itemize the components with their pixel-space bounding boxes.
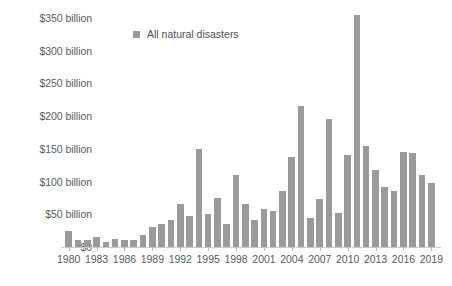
bar-2013[interactable] — [372, 170, 379, 247]
x-tick-label-1980: 1980 — [57, 253, 80, 265]
x-tick-label-1989: 1989 — [141, 253, 164, 265]
bar-slot — [166, 8, 175, 247]
x-tick-label-2010: 2010 — [336, 253, 359, 265]
bar-slot — [389, 8, 398, 247]
x-tick-label-1986: 1986 — [113, 253, 136, 265]
bar-2014[interactable] — [381, 187, 388, 247]
bar-1991[interactable] — [168, 220, 175, 248]
bar-1996[interactable] — [214, 198, 221, 247]
bar-2007[interactable] — [316, 199, 323, 247]
bar-slot — [83, 8, 92, 247]
bar-2001[interactable] — [261, 209, 268, 247]
bar-1999[interactable] — [242, 204, 249, 247]
bar-2018[interactable] — [419, 175, 426, 247]
bar-slot — [399, 8, 408, 247]
x-tick-label-1995: 1995 — [197, 253, 220, 265]
bar-slot — [222, 8, 231, 247]
bar-slot — [213, 8, 222, 247]
bar-slot — [417, 8, 426, 247]
x-tick-label-2007: 2007 — [308, 253, 331, 265]
bar-slot — [380, 8, 389, 247]
bar-series-all-natural-disasters — [64, 8, 436, 247]
bar-slot — [324, 8, 333, 247]
bar-slot — [148, 8, 157, 247]
bar-slot — [176, 8, 185, 247]
bar-1995[interactable] — [205, 214, 212, 247]
bar-2002[interactable] — [270, 211, 277, 247]
bar-1990[interactable] — [158, 224, 165, 247]
x-tick-label-2001: 2001 — [252, 253, 275, 265]
plot-area — [64, 8, 436, 247]
bar-1998[interactable] — [233, 175, 240, 247]
bar-slot — [64, 8, 73, 247]
bar-slot — [269, 8, 278, 247]
bar-1997[interactable] — [223, 224, 230, 247]
bar-slot — [203, 8, 212, 247]
bar-2000[interactable] — [251, 220, 258, 248]
bar-slot — [120, 8, 129, 247]
x-tick-2016 — [403, 247, 404, 251]
bar-2009[interactable] — [335, 213, 342, 247]
bar-slot — [334, 8, 343, 247]
x-tick-label-1983: 1983 — [85, 253, 108, 265]
bar-slot — [110, 8, 119, 247]
bar-1988[interactable] — [140, 235, 147, 247]
x-tick-label-2013: 2013 — [364, 253, 387, 265]
x-tick-1995 — [208, 247, 209, 251]
bar-2003[interactable] — [279, 191, 286, 247]
bar-2011[interactable] — [354, 15, 361, 247]
x-axis-tick-marks — [64, 247, 436, 251]
bar-2015[interactable] — [391, 191, 398, 247]
bar-2010[interactable] — [344, 155, 351, 247]
x-tick-label-2004: 2004 — [280, 253, 303, 265]
x-tick-label-2016: 2016 — [392, 253, 415, 265]
x-axis: 1980198319861989199219951998200120042007… — [64, 253, 436, 269]
bar-slot — [278, 8, 287, 247]
x-tick-label-1998: 1998 — [224, 253, 247, 265]
bar-slot — [185, 8, 194, 247]
bar-1989[interactable] — [149, 227, 156, 247]
bar-slot — [362, 8, 371, 247]
natural-disasters-bar-chart: $0$50 billion$100 billion$150 billion$20… — [0, 0, 452, 286]
bar-2008[interactable] — [326, 119, 333, 247]
bar-1983[interactable] — [93, 237, 100, 247]
bar-1980[interactable] — [65, 231, 72, 247]
bar-slot — [296, 8, 305, 247]
x-tick-label-2019: 2019 — [420, 253, 443, 265]
x-tick-2019 — [431, 247, 432, 251]
bar-2004[interactable] — [288, 157, 295, 247]
bar-2005[interactable] — [298, 106, 305, 247]
bar-slot — [306, 8, 315, 247]
x-tick-label-1992: 1992 — [169, 253, 192, 265]
bar-slot — [92, 8, 101, 247]
bar-slot — [194, 8, 203, 247]
x-tick-2004 — [292, 247, 293, 251]
x-tick-1980 — [69, 247, 70, 251]
bar-slot — [101, 8, 110, 247]
bar-slot — [250, 8, 259, 247]
bar-slot — [287, 8, 296, 247]
bar-slot — [231, 8, 240, 247]
bar-2012[interactable] — [363, 146, 370, 247]
x-tick-2010 — [348, 247, 349, 251]
bar-1994[interactable] — [196, 149, 203, 247]
x-tick-1989 — [152, 247, 153, 251]
bar-slot — [157, 8, 166, 247]
bar-slot — [129, 8, 138, 247]
x-tick-1986 — [124, 247, 125, 251]
bar-slot — [427, 8, 436, 247]
bar-2016[interactable] — [400, 152, 407, 247]
bar-slot — [241, 8, 250, 247]
bar-slot — [352, 8, 361, 247]
x-tick-2001 — [264, 247, 265, 251]
bar-2017[interactable] — [409, 153, 416, 247]
bar-1985[interactable] — [112, 239, 119, 248]
bar-slot — [408, 8, 417, 247]
bar-2019[interactable] — [428, 183, 435, 247]
bar-1992[interactable] — [177, 204, 184, 247]
bar-2006[interactable] — [307, 218, 314, 247]
bar-slot — [315, 8, 324, 247]
bar-1993[interactable] — [186, 216, 193, 247]
x-tick-2007 — [320, 247, 321, 251]
x-tick-1998 — [236, 247, 237, 251]
